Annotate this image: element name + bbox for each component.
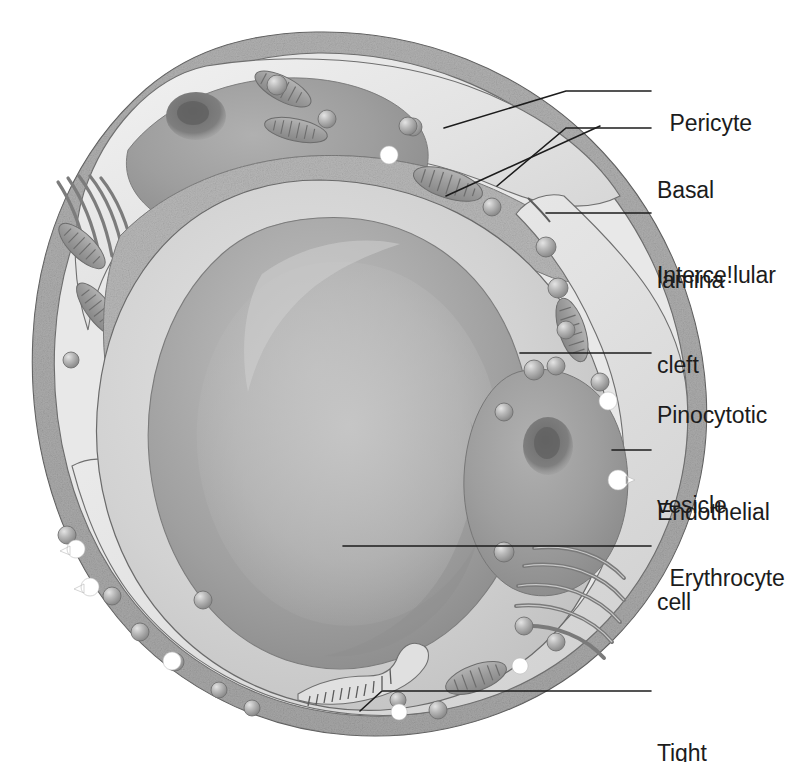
figure-canvas: Pericyte Basal lamina Interce!lular clef… xyxy=(0,0,793,762)
label-tight-junction: Tight junction xyxy=(657,678,735,762)
label-tight-junction-line1: Tight xyxy=(657,738,735,762)
label-intercellular-cleft-line1: Interce!lular xyxy=(657,260,776,290)
label-pinocytotic-vesicle-line1: Pinocytotic xyxy=(657,400,767,430)
label-erythrocyte: Erythrocyte xyxy=(657,533,785,593)
label-erythrocyte-line1: Erythrocyte xyxy=(670,565,785,591)
label-endothelial-cell-line1: Endothelial xyxy=(657,497,770,527)
